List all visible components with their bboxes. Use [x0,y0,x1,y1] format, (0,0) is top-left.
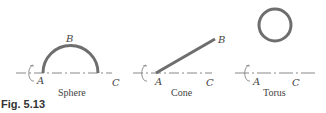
cone-caption: Cone [171,87,193,98]
label-c: C [206,77,214,88]
torus-circle [259,9,291,41]
figure-caption: Fig. 5.13 [1,98,45,110]
label-a: A [252,76,260,87]
sphere-arc [43,45,98,73]
cone-segment [156,39,215,73]
sphere-caption: Sphere [58,87,86,98]
label-c: C [112,77,120,88]
label-b: B [65,33,73,44]
torus-caption: Torus [263,87,286,98]
label-a: A [154,76,162,87]
label-c: C [292,77,300,88]
label-b: B [217,34,225,45]
cone-panel: A B C Cone [133,34,225,98]
label-a: A [36,75,44,86]
figure-canvas: A B C Sphere A B C Cone A C Torus [0,0,326,113]
sphere-panel: A B C Sphere [16,33,120,98]
torus-panel: A C Torus [235,9,315,98]
